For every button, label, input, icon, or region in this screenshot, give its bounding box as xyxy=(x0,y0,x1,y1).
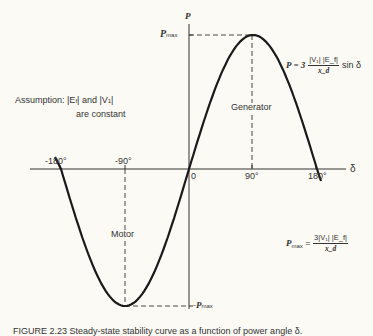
generator-region-label: Generator xyxy=(230,103,273,112)
power-equation: P = 3 |V₁| |E_f|x_d sin δ xyxy=(286,56,361,74)
motor-region-label: Motor xyxy=(110,230,135,239)
tick-label-90: 90° xyxy=(245,172,259,181)
tick-label-0: 0 xyxy=(191,172,196,181)
tick-label-neg90: -90° xyxy=(115,157,132,166)
figure-caption: FIGURE 2.23 Steady-state stability curve… xyxy=(13,326,302,336)
power-angle-curve xyxy=(55,35,321,306)
neg-pmax-label: -Pmax xyxy=(193,301,213,310)
tick-label-180: 180° xyxy=(308,172,327,181)
pmax-equation: Pmax = 3|V₁| |E_f|x_d xyxy=(286,234,348,252)
assumption-note-line2: are constant xyxy=(76,110,126,119)
pmax-label: Pmax xyxy=(160,29,177,39)
y-axis-label: P xyxy=(185,12,191,21)
tick-label-neg180: -180° xyxy=(45,157,67,166)
assumption-note: Assumption: |Ef| and |V1| xyxy=(15,96,113,105)
x-axis-label: δ xyxy=(350,164,356,174)
